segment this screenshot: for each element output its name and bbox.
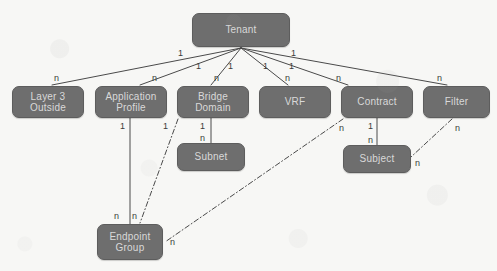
multiplicity-label: n <box>339 124 344 133</box>
node-subnet[interactable]: Subnet <box>177 143 245 171</box>
object-model-diagram: Tenant Layer 3 Outside Application Profi… <box>0 0 497 271</box>
node-endpoint-group[interactable]: Endpoint Group <box>97 224 163 260</box>
node-endpoint-group-label: Endpoint Group <box>109 231 150 254</box>
multiplicity-label: 1 <box>368 122 373 131</box>
node-tenant-label: Tenant <box>225 24 256 36</box>
multiplicity-label: 1 <box>196 62 201 71</box>
multiplicity-label: n <box>455 124 460 133</box>
multiplicity-label: 1 <box>263 62 268 71</box>
node-contract-label: Contract <box>357 96 396 108</box>
multiplicity-label: n <box>368 136 373 145</box>
node-subnet-label: Subnet <box>195 151 228 163</box>
edge-bridge-domain-to-endpoint-group <box>140 119 178 223</box>
multiplicity-label: n <box>415 159 420 168</box>
multiplicity-label: n <box>336 74 341 83</box>
multiplicity-label: 1 <box>120 122 125 131</box>
node-filter[interactable]: Filter <box>423 86 490 118</box>
multiplicity-label: 1 <box>178 49 183 58</box>
multiplicity-label: n <box>437 74 442 83</box>
multiplicity-label: n <box>285 74 290 83</box>
node-layer3-outside[interactable]: Layer 3 Outside <box>12 86 84 118</box>
node-application-profile[interactable]: Application Profile <box>95 86 167 118</box>
multiplicity-label: n <box>114 212 119 221</box>
multiplicity-label: n <box>152 74 157 83</box>
multiplicity-label: 1 <box>163 122 168 131</box>
node-tenant[interactable]: Tenant <box>192 13 290 47</box>
edge-contract-to-endpoint-group <box>165 119 343 242</box>
multiplicity-label: n <box>214 74 219 83</box>
edge-tenant-to-filter <box>241 48 447 85</box>
multiplicity-label: n <box>170 238 175 247</box>
node-bridge-domain[interactable]: Bridge Domain <box>177 86 249 118</box>
multiplicity-label: n <box>132 212 137 221</box>
multiplicity-label: n <box>200 134 205 143</box>
node-bridge-domain-label: Bridge Domain <box>195 91 231 114</box>
node-subject-label: Subject <box>360 153 395 165</box>
node-filter-label: Filter <box>445 96 468 108</box>
node-vrf[interactable]: VRF <box>259 86 331 118</box>
node-layer3-outside-label: Layer 3 Outside <box>30 91 66 114</box>
edge-tenant-to-layer3-outside <box>52 48 241 85</box>
node-application-profile-label: Application Profile <box>105 91 156 114</box>
edge-filter-to-subject <box>411 119 452 157</box>
multiplicity-label: 1 <box>291 49 296 58</box>
node-contract[interactable]: Contract <box>341 86 413 118</box>
multiplicity-label: 1 <box>228 62 233 71</box>
multiplicity-label: n <box>54 74 59 83</box>
node-subject[interactable]: Subject <box>343 145 411 173</box>
multiplicity-label: 1 <box>200 122 205 131</box>
node-vrf-label: VRF <box>285 96 306 108</box>
multiplicity-label: 1 <box>289 62 294 71</box>
